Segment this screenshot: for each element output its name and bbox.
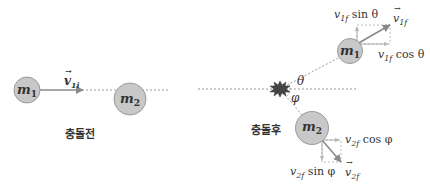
m2-symbol: m	[120, 91, 134, 106]
m2-after-symbol: m	[302, 119, 316, 134]
label-m2-after: m2	[296, 120, 328, 136]
label-v1f-cos: v1f cos θ	[378, 49, 424, 63]
m1-trajectory-dashed	[280, 57, 340, 89]
caption-after: 충돌후	[251, 125, 281, 136]
label-v1i: v1i	[64, 75, 80, 89]
m2-subscript: 2	[134, 98, 140, 108]
label-v2f-sin: v2f sin φ	[290, 166, 335, 180]
label-v2f-cos: v2f cos φ	[345, 134, 392, 148]
m2-after-subscript: 2	[316, 126, 322, 136]
label-v1f-sin: v1f sin θ	[334, 9, 378, 23]
label-theta: θ	[297, 75, 304, 87]
label-m1-before: m1	[14, 83, 40, 99]
label-phi: φ	[291, 92, 299, 104]
m1-subscript: 1	[31, 89, 37, 99]
v1i-symbol: v	[64, 75, 71, 87]
m1-after-subscript: 1	[354, 50, 360, 60]
m1-symbol: m	[17, 82, 31, 97]
label-m1-after: m1	[337, 44, 363, 60]
collision-diagram	[0, 0, 430, 187]
v2f-arrow	[322, 140, 341, 162]
label-m2-before: m2	[114, 92, 146, 108]
label-v2f-vector: v2f	[345, 167, 359, 181]
caption-before: 충돌전	[65, 129, 95, 140]
label-v1f-vector: v1f	[393, 13, 407, 27]
v1f-arrow	[357, 25, 390, 44]
v1i-subscript: 1i	[71, 80, 80, 90]
m1-after-symbol: m	[340, 43, 354, 58]
